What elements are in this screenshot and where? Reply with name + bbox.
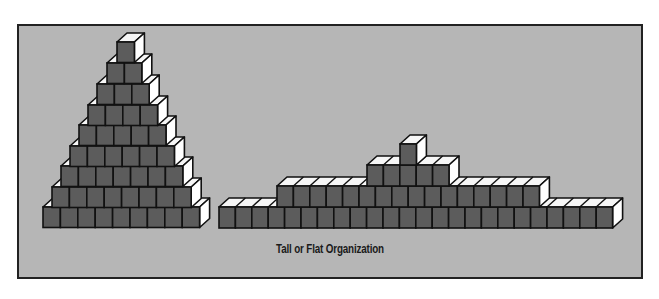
block	[60, 207, 77, 228]
block	[350, 207, 366, 228]
block	[113, 207, 130, 228]
block	[235, 207, 251, 228]
block	[70, 146, 87, 167]
block	[96, 166, 113, 187]
block	[52, 187, 69, 208]
block	[174, 187, 191, 208]
block	[277, 186, 293, 207]
block	[149, 125, 166, 146]
block	[490, 186, 506, 207]
block	[79, 125, 96, 146]
block	[367, 165, 383, 186]
flat-organization	[219, 135, 623, 228]
block	[399, 207, 415, 228]
block	[87, 187, 104, 208]
block	[432, 207, 448, 228]
block	[400, 165, 416, 186]
block	[523, 186, 539, 207]
block	[392, 186, 408, 207]
block	[88, 105, 105, 126]
block	[87, 146, 104, 167]
block	[293, 186, 309, 207]
block	[104, 187, 121, 208]
block	[359, 186, 375, 207]
block	[157, 146, 174, 167]
block	[69, 187, 86, 208]
block	[375, 186, 391, 207]
block	[139, 187, 156, 208]
block	[78, 207, 95, 228]
block	[317, 207, 333, 228]
block	[416, 165, 432, 186]
block	[531, 207, 547, 228]
block	[400, 144, 416, 165]
block	[383, 207, 399, 228]
block	[105, 146, 122, 167]
block	[148, 166, 165, 187]
block	[114, 84, 131, 105]
block	[547, 207, 563, 228]
block	[130, 207, 147, 228]
block	[122, 146, 139, 167]
block	[165, 166, 182, 187]
block	[343, 186, 359, 207]
block	[441, 186, 457, 207]
block	[43, 207, 60, 228]
block	[563, 207, 579, 228]
block	[507, 186, 523, 207]
block	[498, 207, 514, 228]
block	[147, 207, 164, 228]
block	[252, 207, 268, 228]
tall-organization	[43, 33, 210, 228]
block	[433, 165, 449, 186]
block	[425, 186, 441, 207]
block	[156, 187, 173, 208]
block	[481, 207, 497, 228]
block	[334, 207, 350, 228]
block	[408, 186, 424, 207]
diagram-caption: Tall or Flat Organization	[256, 242, 404, 256]
block	[132, 84, 149, 105]
block	[596, 207, 612, 228]
block	[474, 186, 490, 207]
block	[182, 207, 199, 228]
block	[113, 166, 130, 187]
block	[131, 166, 148, 187]
block	[105, 105, 122, 126]
block	[268, 207, 284, 228]
block	[140, 105, 157, 126]
block	[117, 42, 134, 63]
block	[219, 207, 235, 228]
block	[310, 186, 326, 207]
block	[124, 63, 141, 84]
block	[580, 207, 596, 228]
block	[95, 207, 112, 228]
block	[416, 207, 432, 228]
block	[114, 125, 131, 146]
block	[61, 166, 78, 187]
block	[122, 187, 139, 208]
block	[131, 125, 148, 146]
block	[97, 84, 114, 105]
block	[367, 207, 383, 228]
block	[78, 166, 95, 187]
block	[465, 207, 481, 228]
block	[326, 186, 342, 207]
block	[301, 207, 317, 228]
block	[107, 63, 124, 84]
block	[285, 207, 301, 228]
block	[383, 165, 399, 186]
block	[514, 207, 530, 228]
block	[123, 105, 140, 126]
block	[96, 125, 113, 146]
block	[140, 146, 157, 167]
block	[165, 207, 182, 228]
block	[449, 207, 465, 228]
block	[457, 186, 473, 207]
